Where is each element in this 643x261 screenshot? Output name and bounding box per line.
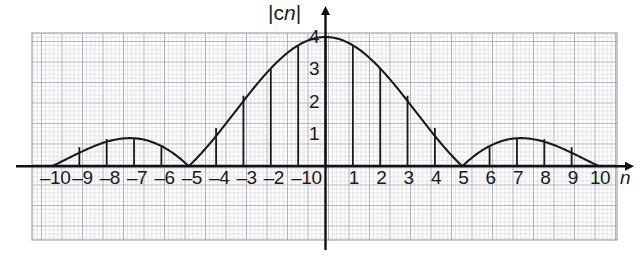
x-tick-label: 6 [486, 168, 496, 187]
magnitude-spectrum-figure: |cn| –10–9–8–7–6–5–4–3–2–1012345678910 1… [0, 0, 643, 261]
y-tick-label: 3 [303, 59, 319, 78]
x-tick-label: 5 [458, 168, 468, 187]
x-tick-label: –6 [154, 168, 174, 187]
y-axis-title: |cn| [268, 2, 301, 23]
x-tick-label: 2 [376, 168, 386, 187]
x-tick-label: –1 [291, 168, 311, 187]
x-tick-label: 3 [404, 168, 414, 187]
y-tick-label: 2 [303, 92, 319, 111]
y-axis-title-close: | [296, 1, 301, 24]
y-tick-label: 1 [303, 124, 319, 143]
x-tick-label: –5 [182, 168, 202, 187]
x-tick-label: –8 [100, 168, 120, 187]
x-tick-label: 4 [431, 168, 441, 187]
y-axis-title-variable: n [284, 1, 296, 24]
plot-canvas [0, 0, 643, 261]
x-tick-label: 0 [312, 168, 322, 187]
x-tick-label: –2 [264, 168, 284, 187]
x-tick-label: 1 [349, 168, 359, 187]
x-tick-label: –9 [72, 168, 92, 187]
x-tick-label: –7 [127, 168, 147, 187]
x-tick-label: 10 [590, 168, 610, 187]
x-tick-label: –3 [236, 168, 256, 187]
x-tick-label: 9 [568, 168, 578, 187]
x-tick-label: 7 [513, 168, 523, 187]
y-axis-title-open: |c [268, 1, 284, 24]
x-axis-name-label: n [620, 168, 630, 187]
x-tick-label: 8 [540, 168, 550, 187]
x-tick-label: –10 [40, 168, 70, 187]
y-tick-label: 4 [303, 27, 319, 46]
x-tick-label: –4 [209, 168, 229, 187]
